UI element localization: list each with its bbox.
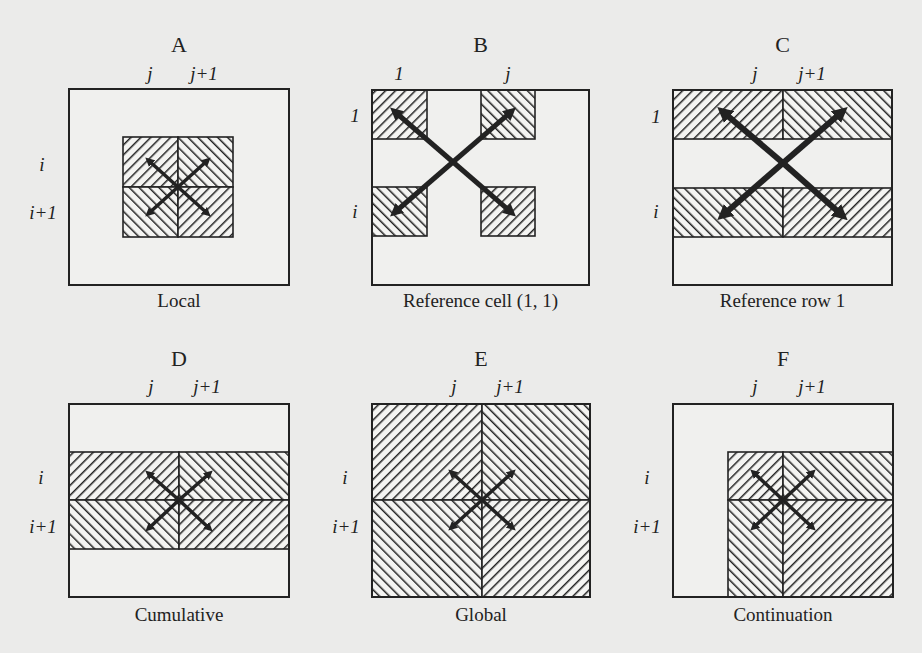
row-label: i+1: [29, 516, 57, 537]
hatched-region: [179, 500, 289, 549]
column-label: j: [145, 376, 153, 397]
panel-letter: F: [777, 346, 789, 371]
panel-b: B1j1iReference cell (1, 1): [350, 32, 589, 312]
column-label: j+1: [795, 376, 826, 397]
row-label: i: [39, 154, 44, 175]
column-label: 1: [394, 63, 404, 84]
hatched-region: [69, 500, 179, 549]
panel-f: Fjj+1ii+1Continuation: [633, 346, 893, 625]
hatched-region: [783, 452, 893, 500]
row-label: 1: [350, 105, 360, 126]
panel-e: Ejj+1ii+1Global: [332, 346, 590, 625]
panel-a: Ajj+1ii+1Local: [29, 32, 289, 311]
column-label: j: [749, 63, 757, 84]
hatched-region: [69, 452, 179, 500]
column-label: j: [448, 376, 456, 397]
panel-d: Djj+1ii+1Cumulative: [29, 346, 289, 625]
dependency-patterns-diagram: Ajj+1ii+1LocalB1j1iReference cell (1, 1)…: [0, 0, 922, 653]
figure-canvas: Ajj+1ii+1LocalB1j1iReference cell (1, 1)…: [0, 0, 922, 653]
hatched-region: [179, 452, 289, 500]
row-label: i: [38, 467, 43, 488]
panel-caption: Local: [157, 290, 200, 311]
panel-caption: Continuation: [733, 604, 833, 625]
row-label: i+1: [332, 516, 360, 537]
panel-letter: B: [473, 32, 488, 57]
column-label: j+1: [187, 63, 218, 84]
panel-letter: E: [474, 346, 487, 371]
row-label: i+1: [633, 516, 661, 537]
panel-caption: Cumulative: [135, 604, 224, 625]
row-label: i+1: [29, 202, 57, 223]
column-label: j+1: [190, 376, 221, 397]
panel-letter: C: [775, 32, 790, 57]
panel-caption: Reference row 1: [720, 290, 846, 311]
column-label: j: [749, 376, 757, 397]
row-label: i: [352, 201, 357, 222]
panel-letter: A: [171, 32, 187, 57]
panel-caption: Reference cell (1, 1): [403, 290, 558, 312]
column-label: j: [502, 63, 510, 84]
panel-letter: D: [171, 346, 187, 371]
column-label: j: [144, 63, 152, 84]
hatched-region: [728, 500, 783, 597]
panel-caption: Global: [455, 604, 507, 625]
row-label: i: [342, 467, 347, 488]
column-label: j+1: [795, 63, 826, 84]
panel-c: Cjj+11iReference row 1: [651, 32, 892, 311]
row-label: i: [644, 467, 649, 488]
row-label: i: [653, 201, 658, 222]
row-label: 1: [651, 106, 661, 127]
column-label: j+1: [493, 376, 524, 397]
